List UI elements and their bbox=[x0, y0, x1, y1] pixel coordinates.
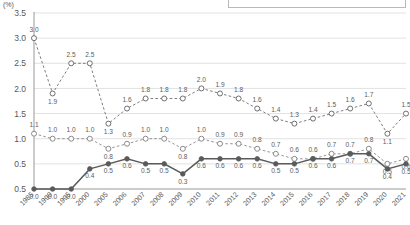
data-point-marker bbox=[366, 101, 371, 106]
data-point-marker bbox=[69, 61, 74, 66]
data-point-marker bbox=[106, 146, 111, 151]
data-point-marker bbox=[143, 136, 148, 141]
data-point-marker bbox=[218, 157, 223, 162]
data-point-marker bbox=[180, 146, 185, 151]
line-chart: 0.50.51.01.52.02.53.03.51985199019952000… bbox=[0, 0, 410, 225]
data-point-marker bbox=[274, 162, 279, 167]
data-point-label: 0.6 bbox=[327, 162, 336, 169]
data-point-marker bbox=[125, 106, 130, 111]
data-point-label: 0.6 bbox=[234, 162, 243, 169]
x-axis-tick-label: 2013 bbox=[241, 190, 259, 208]
data-point-label: 0.6 bbox=[215, 162, 224, 169]
data-point-marker bbox=[255, 157, 260, 162]
data-point-marker bbox=[385, 161, 390, 166]
data-point-marker bbox=[218, 141, 223, 146]
y-axis-tick-label: 0.5 bbox=[14, 159, 26, 169]
data-point-marker bbox=[292, 156, 297, 161]
x-axis-tick-label: 2000 bbox=[74, 190, 92, 208]
data-point-marker bbox=[255, 146, 260, 151]
data-point-marker bbox=[366, 146, 371, 151]
data-point-marker bbox=[69, 136, 74, 141]
data-point-marker bbox=[273, 151, 278, 156]
data-point-marker bbox=[367, 152, 372, 157]
data-point-label: 0.9 bbox=[122, 131, 131, 138]
data-point-marker bbox=[199, 157, 204, 162]
x-axis-tick-label: 2006 bbox=[111, 190, 129, 208]
data-point-label: 0.6 bbox=[197, 162, 206, 169]
data-point-marker bbox=[329, 111, 334, 116]
data-point-marker bbox=[385, 131, 390, 136]
data-point-marker bbox=[348, 106, 353, 111]
data-point-label: 1.8 bbox=[178, 86, 187, 93]
data-point-label: 1.5 bbox=[401, 101, 410, 108]
data-point-marker bbox=[162, 162, 167, 167]
y-axis-tick-label: 0.5 bbox=[14, 184, 26, 194]
data-point-marker bbox=[125, 157, 130, 162]
data-point-label: 0.8 bbox=[104, 153, 113, 160]
data-point-marker bbox=[348, 152, 353, 157]
x-axis-tick-label: 2020 bbox=[371, 190, 389, 208]
data-point-marker bbox=[50, 91, 55, 96]
data-point-marker bbox=[311, 116, 316, 121]
data-point-label: 1.4 bbox=[271, 106, 280, 113]
x-axis-tick-label: 2019 bbox=[353, 190, 371, 208]
data-point-label: 0.4 bbox=[383, 173, 392, 180]
data-point-marker bbox=[50, 187, 55, 192]
data-point-label: 0.5 bbox=[160, 167, 169, 174]
x-axis-tick-label: 2018 bbox=[334, 190, 352, 208]
data-point-label: 0.8 bbox=[253, 136, 262, 143]
data-point-label: 3.0 bbox=[29, 26, 38, 33]
data-point-label: 1.1 bbox=[29, 121, 38, 128]
data-point-marker bbox=[292, 162, 297, 167]
data-point-label: 1.3 bbox=[104, 128, 113, 135]
data-point-label: 0.9 bbox=[215, 131, 224, 138]
data-point-marker bbox=[404, 156, 409, 161]
data-point-label: 1.8 bbox=[234, 86, 243, 93]
data-point-label: 0.9 bbox=[234, 131, 243, 138]
data-point-marker bbox=[180, 96, 185, 101]
data-point-label: 0.0 bbox=[67, 193, 76, 200]
y-axis-tick-label: 2.0 bbox=[14, 84, 26, 94]
y-axis-tick-label: 3.0 bbox=[14, 33, 26, 43]
data-point-marker bbox=[69, 187, 74, 192]
data-point-label: 1.6 bbox=[253, 96, 262, 103]
data-point-marker bbox=[236, 141, 241, 146]
x-axis-tick-label: 2005 bbox=[92, 190, 110, 208]
data-point-label: 1.0 bbox=[141, 126, 150, 133]
y-axis-tick-label: 2.5 bbox=[14, 58, 26, 68]
data-point-label: 0.6 bbox=[308, 162, 317, 169]
data-point-label: 1.0 bbox=[160, 126, 169, 133]
data-point-marker bbox=[143, 96, 148, 101]
data-point-marker bbox=[236, 157, 241, 162]
data-point-label: 0.7 bbox=[271, 141, 280, 148]
data-point-label: 1.6 bbox=[346, 96, 355, 103]
data-point-label: 0.5 bbox=[271, 167, 280, 174]
data-point-label: 0.0 bbox=[48, 193, 57, 200]
data-point-label: 1.8 bbox=[160, 86, 169, 93]
data-point-label: 0.7 bbox=[327, 141, 336, 148]
x-axis-tick-labels: 1985199019952000200520062007200820092010… bbox=[18, 190, 408, 208]
data-point-marker bbox=[106, 121, 111, 126]
data-point-marker bbox=[255, 106, 260, 111]
x-axis-tick-label: 2009 bbox=[167, 190, 185, 208]
data-point-label: 0.6 bbox=[253, 162, 262, 169]
x-axis-tick-label: 2007 bbox=[129, 190, 147, 208]
data-point-label: 0.6 bbox=[308, 146, 317, 153]
data-point-marker bbox=[385, 167, 390, 172]
data-point-marker bbox=[181, 172, 186, 177]
data-point-label: 0.4 bbox=[85, 172, 94, 179]
x-axis-tick-label: 2014 bbox=[260, 190, 278, 208]
data-point-label: 2.5 bbox=[67, 51, 76, 58]
data-point-label: 1.5 bbox=[327, 101, 336, 108]
data-point-label: 0.0 bbox=[29, 193, 38, 200]
data-point-marker bbox=[292, 121, 297, 126]
data-point-label: 0.5 bbox=[290, 167, 299, 174]
data-point-marker bbox=[106, 162, 111, 167]
data-point-label: 0.7 bbox=[346, 141, 355, 148]
data-point-marker bbox=[218, 91, 223, 96]
data-point-label: 1.0 bbox=[85, 126, 94, 133]
data-point-label: 1.4 bbox=[308, 106, 317, 113]
x-axis-tick-label: 2017 bbox=[315, 190, 333, 208]
data-point-marker bbox=[162, 96, 167, 101]
x-axis-tick-label: 2012 bbox=[222, 190, 240, 208]
